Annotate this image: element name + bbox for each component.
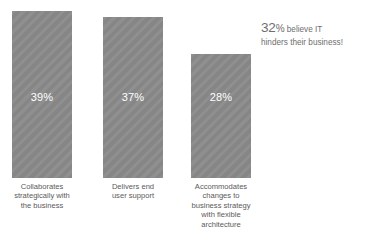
callout-annotation: 32% believe IT hinders their business!	[261, 20, 363, 49]
bar-3[interactable]	[191, 54, 251, 178]
bar-category-line: Delivers end	[112, 182, 154, 191]
bar-value-3: 28%	[191, 91, 251, 103]
bar-category-line: changes to	[202, 191, 239, 200]
bar-category-label-3: Accommodates changes to business strateg…	[179, 182, 263, 229]
bar-category-line: architecture	[201, 220, 241, 229]
bar-category-line: with flexible	[201, 210, 240, 219]
bar-category-line: the business	[21, 201, 64, 210]
callout-percent-sign: %	[276, 23, 285, 34]
bar-value-2: 37%	[103, 91, 163, 103]
bar-category-line: Collaborates	[21, 182, 64, 191]
bar-category-line: user support	[112, 191, 154, 200]
bar-category-line: Accommodates	[195, 182, 247, 191]
bar-value-1: 39%	[12, 91, 72, 103]
bar-category-line: business strategy	[191, 201, 250, 210]
bar-category-label-2: Delivers end user support	[91, 182, 175, 201]
callout-big-number: 32	[261, 20, 276, 35]
bar-category-label-1: Collaborates strategically with the busi…	[0, 182, 84, 210]
bar-chart: 39% Collaborates strategically with the …	[0, 0, 366, 240]
callout-text-1: believe IT	[285, 25, 323, 34]
bar-category-line: strategically with	[14, 191, 70, 200]
callout-line-1: 32% believe IT	[261, 20, 363, 36]
callout-text-2: hinders their business!	[261, 36, 363, 49]
